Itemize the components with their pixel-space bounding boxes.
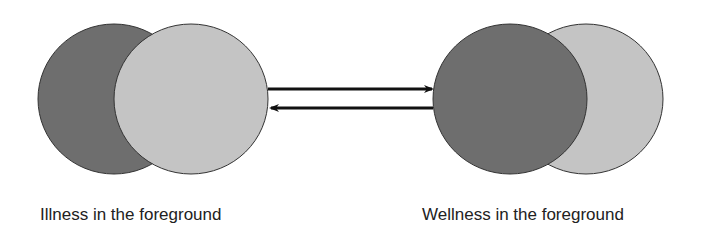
left-light-circle bbox=[114, 24, 268, 174]
right-circle-group bbox=[433, 24, 663, 174]
diagram-canvas bbox=[0, 0, 712, 239]
right-label: Wellness in the foreground bbox=[422, 205, 624, 225]
right-dark-circle bbox=[433, 24, 587, 174]
left-circle-group bbox=[38, 24, 268, 174]
left-label: Illness in the foreground bbox=[40, 205, 221, 225]
